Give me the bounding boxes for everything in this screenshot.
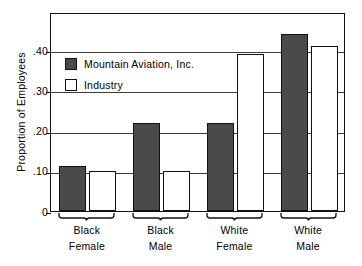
bar-chart: Proportion of Employees 0.10.20.30.40 Mo…	[0, 0, 362, 266]
group-brace-icon	[58, 212, 115, 221]
category-group: WhiteFemale	[206, 212, 263, 252]
category-label: Black	[132, 224, 189, 237]
plot-area: Mountain Aviation, Inc. Industry	[50, 13, 345, 212]
y-axis-tick-labels: 0.10.20.30.40	[20, 0, 48, 212]
category-label: Female	[58, 240, 115, 253]
y-axis-tick-label: 0	[22, 207, 48, 217]
category-group: WhiteMale	[280, 212, 337, 252]
y-axis-tick-label: .20	[22, 126, 48, 136]
bar	[207, 123, 234, 211]
bar	[59, 166, 86, 211]
group-brace-icon	[280, 212, 337, 221]
legend-swatch-icon-industry	[65, 79, 77, 91]
legend-item-mountain-aviation: Mountain Aviation, Inc.	[65, 54, 194, 73]
bar	[133, 123, 160, 211]
bar	[311, 46, 338, 211]
y-axis-tick-label: .40	[22, 46, 48, 56]
category-label: Male	[132, 240, 189, 253]
bars-layer	[51, 14, 344, 211]
legend-label-industry: Industry	[84, 79, 123, 91]
category-label: Black	[58, 224, 115, 237]
category-label: Male	[280, 240, 337, 253]
category-group: BlackMale	[132, 212, 189, 252]
category-group: BlackFemale	[58, 212, 115, 252]
legend-label-mountain-aviation: Mountain Aviation, Inc.	[84, 58, 194, 70]
category-label: White	[206, 224, 263, 237]
bar	[281, 34, 308, 211]
bar	[163, 171, 190, 211]
legend: Mountain Aviation, Inc. Industry	[65, 54, 194, 96]
bar	[237, 54, 264, 211]
bar	[89, 171, 116, 211]
legend-item-industry: Industry	[65, 75, 194, 94]
group-brace-icon	[206, 212, 263, 221]
category-label: White	[280, 224, 337, 237]
y-axis-tick-label: .10	[22, 166, 48, 176]
group-brace-icon	[132, 212, 189, 221]
y-axis-tick-label: .30	[22, 86, 48, 96]
x-axis-categories: BlackFemaleBlackMaleWhiteFemaleWhiteMale	[50, 212, 345, 266]
legend-swatch-icon-mountain-aviation	[65, 58, 77, 70]
category-label: Female	[206, 240, 263, 253]
